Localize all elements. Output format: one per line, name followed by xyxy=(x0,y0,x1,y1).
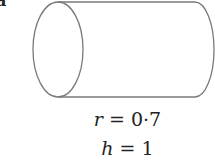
radius-label: r = 0·7 xyxy=(0,110,215,129)
height-symbol: h xyxy=(101,137,113,159)
radius-value: 0·7 xyxy=(131,108,161,130)
height-equals: = xyxy=(120,137,136,159)
cylinder-left-face xyxy=(33,2,83,97)
height-value: 1 xyxy=(142,137,154,159)
height-label: h = 1 xyxy=(0,139,215,158)
cylinder-body-outline xyxy=(58,2,214,97)
radius-symbol: r xyxy=(94,108,103,130)
radius-equals: = xyxy=(109,108,125,130)
